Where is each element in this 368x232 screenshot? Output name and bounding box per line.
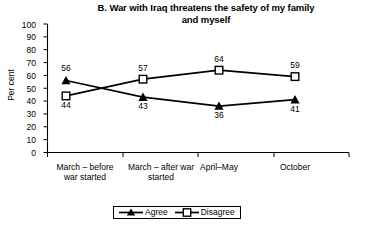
x-tick-label-october: October xyxy=(260,162,330,172)
x-tick-label-line: October xyxy=(280,162,310,172)
x-tick-label-april-may: April–May xyxy=(184,162,254,172)
x-tick-label-line: started xyxy=(148,172,174,182)
x-tick-label-line: March – before xyxy=(56,162,113,172)
x-tick-label-march-before: March – before war started xyxy=(46,162,124,182)
legend-entry-disagree[interactable]: Disagree xyxy=(175,207,235,218)
x-axis-tick-labels: March – before war started March – after… xyxy=(0,0,368,232)
legend-label-agree: Agree xyxy=(144,208,168,217)
x-tick-label-line: April–May xyxy=(200,162,238,172)
chart-container: B. War with Iraq threatens the safety of… xyxy=(0,0,368,232)
legend-marker-filled-triangle-icon xyxy=(119,207,143,218)
chart-legend: Agree Disagree xyxy=(113,206,241,219)
legend-label-disagree: Disagree xyxy=(200,208,235,217)
legend-marker-open-square-icon xyxy=(175,207,199,218)
x-tick-label-line: war started xyxy=(64,172,106,182)
legend-entry-agree[interactable]: Agree xyxy=(119,207,168,218)
